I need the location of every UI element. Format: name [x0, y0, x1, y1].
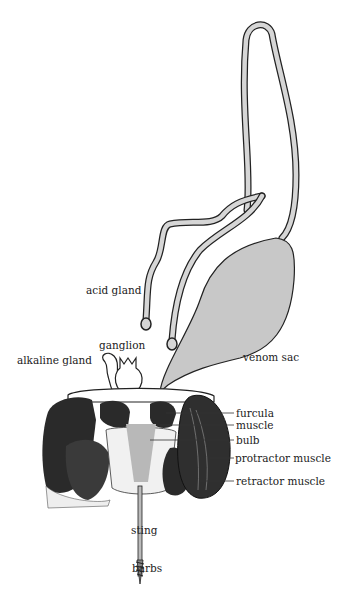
venom-sac [160, 238, 294, 392]
label-muscle: muscle [236, 420, 274, 431]
label-protractor-muscle: protractor muscle [235, 453, 331, 464]
label-ganglion: ganglion [99, 340, 145, 351]
label-retractor-muscle: retractor muscle [236, 476, 325, 487]
protractor-muscle [178, 395, 231, 498]
label-sting: sting [131, 525, 157, 536]
label-bulb: bulb [236, 435, 260, 446]
sting-apparatus-illustration [0, 0, 342, 604]
label-alkaline-gland: alkaline gland [17, 355, 92, 366]
label-barbs: barbs [132, 563, 162, 574]
label-venom-sac: venom sac [243, 352, 299, 363]
label-acid-gland: acid gland [86, 285, 141, 296]
label-furcula: furcula [236, 408, 274, 419]
